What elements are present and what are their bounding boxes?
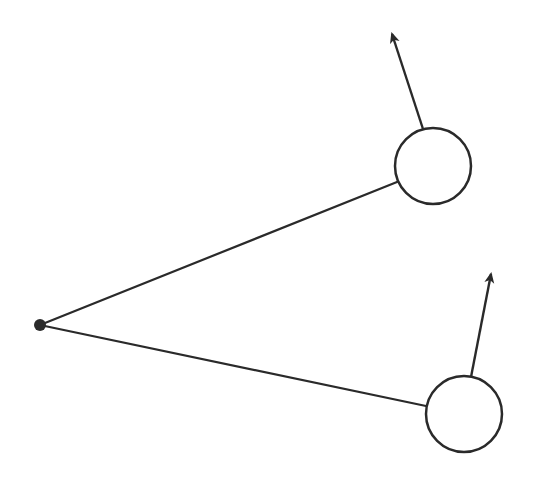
lower-mass-circle: [426, 376, 502, 452]
upper-velocity-arrow-icon: [392, 34, 423, 129]
pivot-point: [34, 319, 46, 331]
diagram-svg: [0, 0, 533, 483]
rod-line-lower: [40, 325, 426, 406]
rod-line-upper: [40, 182, 397, 325]
upper-mass-circle: [395, 128, 471, 204]
diagram-canvas: [0, 0, 533, 483]
lower-velocity-arrow-icon: [471, 274, 491, 377]
